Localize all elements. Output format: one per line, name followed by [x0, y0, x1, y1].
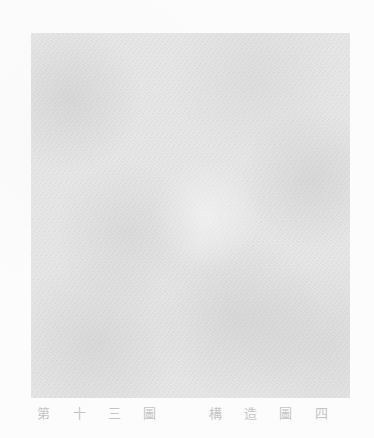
figure-caption: 第 十 三 圖 構 造 圖 四 — [0, 403, 374, 422]
caption-part-2: 構 造 圖 四 — [209, 403, 336, 422]
caption-part-1: 第 十 三 圖 — [37, 403, 164, 422]
scanned-page: 第 十 三 圖 構 造 圖 四 — [0, 0, 374, 438]
illustration-plate — [31, 33, 350, 398]
